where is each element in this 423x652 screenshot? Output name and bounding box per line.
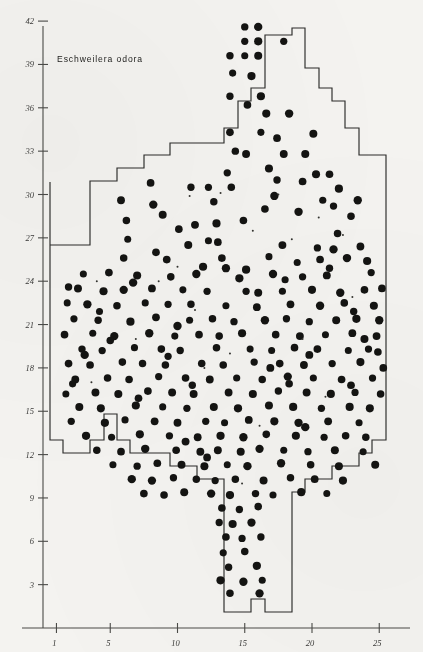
data-point	[206, 376, 214, 384]
y-tick-label: 3	[29, 580, 34, 590]
data-point	[220, 549, 227, 556]
data-point	[209, 315, 217, 323]
data-point	[329, 245, 337, 253]
data-point	[218, 504, 226, 512]
data-point	[287, 300, 295, 308]
data-point	[175, 225, 183, 233]
data-point	[171, 333, 178, 340]
data-point	[316, 256, 324, 264]
data-point	[330, 202, 337, 209]
data-point	[241, 548, 248, 555]
data-point	[280, 150, 288, 158]
data-point	[322, 331, 329, 338]
data-point	[308, 286, 316, 294]
data-point	[362, 434, 369, 441]
data-point-small	[177, 266, 179, 268]
data-point	[192, 270, 200, 278]
data-point	[151, 417, 159, 425]
data-point	[373, 332, 381, 340]
figure-title: Eschweilera odora	[57, 54, 143, 64]
data-point	[335, 462, 343, 470]
y-tick-label: 42	[26, 16, 35, 26]
y-tick-label: 12	[26, 450, 35, 460]
data-point	[305, 351, 313, 359]
data-point	[216, 519, 223, 526]
data-point	[260, 477, 268, 485]
data-point-small	[203, 367, 205, 369]
data-point	[280, 447, 287, 454]
data-point	[93, 447, 100, 454]
data-point	[360, 448, 367, 455]
data-point	[182, 374, 190, 382]
data-point-small	[259, 425, 261, 427]
data-point	[96, 308, 103, 315]
data-point	[123, 217, 131, 225]
data-point	[291, 344, 299, 352]
y-tick-label: 24	[26, 276, 35, 286]
data-point	[119, 358, 127, 366]
data-point	[82, 432, 90, 440]
data-point	[319, 197, 326, 204]
data-point	[149, 200, 157, 208]
data-point	[203, 454, 211, 462]
data-point	[126, 318, 134, 326]
data-point	[94, 317, 101, 324]
data-point-small	[342, 234, 344, 236]
data-point	[218, 254, 226, 262]
data-point	[242, 288, 249, 295]
data-point	[65, 283, 72, 290]
data-point	[356, 419, 363, 426]
data-point-small	[194, 309, 196, 311]
data-point	[198, 360, 206, 368]
data-point	[216, 432, 224, 440]
data-point	[255, 445, 263, 453]
data-point	[368, 269, 375, 276]
data-point	[304, 448, 311, 455]
data-point	[125, 376, 133, 384]
data-point	[236, 506, 243, 513]
data-point	[121, 416, 128, 423]
data-point	[219, 361, 227, 369]
data-point-small	[252, 230, 254, 232]
data-point	[183, 405, 190, 412]
data-point	[314, 244, 321, 251]
data-point	[225, 564, 232, 571]
data-point	[242, 266, 250, 274]
data-point	[230, 318, 237, 325]
y-tick-label: 6	[30, 536, 35, 546]
data-point	[210, 198, 217, 205]
data-point	[366, 404, 374, 412]
data-point	[324, 417, 332, 425]
data-point	[163, 256, 171, 264]
data-point	[301, 150, 309, 158]
data-point	[128, 475, 136, 483]
data-point	[190, 390, 198, 398]
data-point	[80, 270, 87, 277]
data-point	[378, 285, 386, 293]
data-point	[167, 273, 175, 281]
data-point	[300, 361, 308, 369]
data-point	[177, 347, 184, 354]
data-point	[114, 390, 122, 398]
data-point	[212, 477, 219, 484]
data-point	[311, 475, 319, 483]
data-point	[228, 184, 236, 192]
data-point	[178, 461, 186, 469]
data-point	[318, 405, 325, 412]
data-point	[257, 533, 264, 540]
data-point	[340, 299, 348, 307]
data-point	[339, 477, 347, 485]
data-point	[164, 353, 171, 360]
data-point	[272, 331, 280, 339]
data-point	[334, 230, 342, 238]
data-point	[342, 432, 350, 440]
data-point	[259, 577, 266, 584]
data-point	[86, 361, 94, 369]
data-point	[195, 331, 203, 339]
data-point	[233, 374, 240, 381]
data-point	[225, 389, 233, 397]
data-point	[371, 461, 379, 469]
data-point	[136, 430, 144, 438]
data-point	[251, 358, 258, 365]
data-point	[307, 461, 315, 469]
